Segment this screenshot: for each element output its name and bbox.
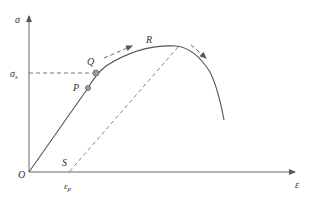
point-p-label: P	[72, 82, 79, 93]
stress-strain-diagram: σ ε σs O P Q R S εp	[0, 0, 311, 202]
yield-stress-label: σs	[10, 68, 18, 81]
unloading-dashed-line	[69, 47, 178, 172]
point-q-marker	[93, 70, 99, 76]
point-s-label: S	[62, 157, 67, 168]
softening-arrow	[191, 45, 206, 58]
origin-label: O	[18, 169, 25, 180]
stress-strain-curve	[29, 46, 224, 172]
x-axis-label: ε	[295, 179, 299, 190]
point-p-marker	[86, 86, 91, 91]
point-r-label: R	[145, 34, 152, 45]
plastic-strain-label: εp	[64, 181, 72, 193]
point-q-label: Q	[87, 56, 95, 67]
y-axis-label: σ	[15, 14, 21, 25]
hardening-arrow	[104, 46, 132, 58]
